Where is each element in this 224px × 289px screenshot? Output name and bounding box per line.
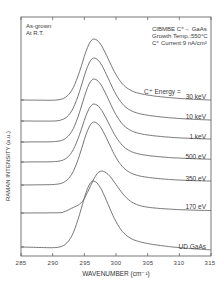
series-label-500ev: 500 eV [185, 153, 206, 160]
series-label-30kev: 30 keV [186, 93, 206, 100]
series-label-10kev: 10 keV [186, 113, 206, 120]
spectrum-ud-gaas [21, 181, 211, 250]
spectrum-350-ev [21, 122, 211, 185]
spectrum-500-ev [21, 104, 211, 162]
spectrum-1-kev [21, 79, 211, 142]
x-tick-285: 285 [16, 260, 27, 266]
at-rt-text: At R.T. [26, 30, 51, 37]
energy-label: C⁺ Energy = [144, 88, 181, 95]
x-axis-label: WAVENUMBER (cm⁻¹) [82, 270, 150, 278]
spectrum-10-kev [21, 58, 211, 121]
cibmbe-text: CIBMBE C⁺→ GaAs [152, 26, 208, 33]
x-tick-300: 300 [111, 260, 122, 266]
x-tick-305: 305 [143, 260, 154, 266]
current-text: C⁺ Current:9 nA/cm² [152, 40, 208, 47]
annotation-as-grown: As-grown At R.T. [26, 23, 51, 37]
series-label-1kev: 1 keV [189, 133, 206, 140]
series-label-170ev: 170 eV [185, 203, 206, 210]
x-tick-295: 295 [80, 260, 91, 266]
annotation-conditions: CIBMBE C⁺→ GaAs Growth Temp.:550°C C⁺ Cu… [152, 26, 208, 47]
series-label-350ev: 350 eV [185, 175, 206, 182]
series-label-ud-gaas: UD GaAs [179, 243, 206, 250]
x-tick-290: 290 [48, 260, 59, 266]
spectra-curves [21, 39, 211, 250]
as-grown-text: As-grown [26, 23, 51, 30]
spectrum-30-kev [21, 39, 211, 100]
y-axis-label: RAMAN INTENSITY (a.u.) [5, 131, 11, 201]
x-tick-315: 315 [205, 260, 216, 266]
growth-temp-text: Growth Temp.:550°C [152, 33, 208, 40]
x-tick-310: 310 [174, 260, 185, 266]
spectrum-170-ev [21, 171, 211, 213]
